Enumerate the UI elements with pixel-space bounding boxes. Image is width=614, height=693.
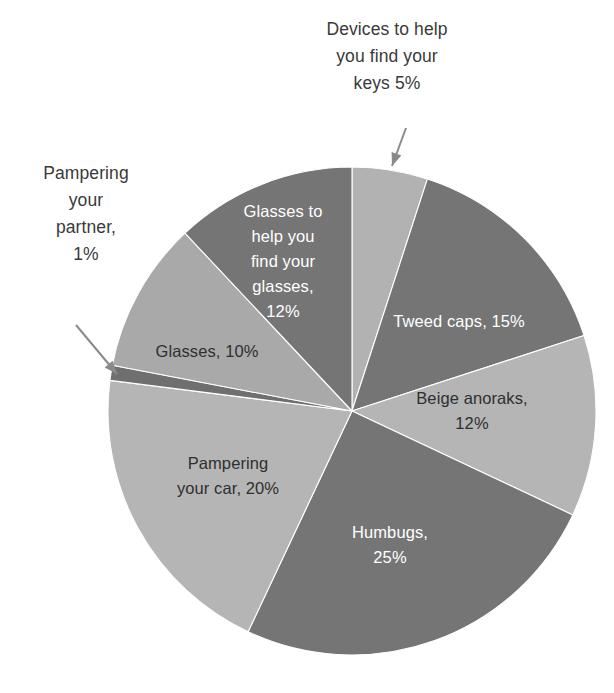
leader-line-devices-to-help-you-find-your-keys [392,128,406,166]
label-line: Beige anoraks, [416,389,527,407]
label-line: keys 5% [354,73,421,93]
label-line: 1% [73,244,99,264]
label-glasses: Glasses, 10% [156,342,259,360]
label-pampering-your-partner: Pamperingyourpartner,1% [43,163,129,264]
label-line: help you [251,227,314,245]
label-tweed-caps: Tweed caps, 15% [393,312,525,330]
label-line: 12% [455,414,489,432]
label-line: glasses, [252,277,313,295]
label-line: partner, [56,217,116,237]
pie-chart: Tweed caps, 15%Beige anoraks,12%Humbugs,… [0,0,614,693]
label-line: Glasses, 10% [156,342,259,360]
pie-chart-svg: Tweed caps, 15%Beige anoraks,12%Humbugs,… [0,0,614,693]
label-line: you find your [336,46,438,66]
leader-line-pampering-your-partner [76,325,117,374]
label-line: Pampering [43,163,129,183]
label-line: Glasses to [244,202,323,220]
label-line: Humbugs, [352,523,428,541]
label-line: Tweed caps, 15% [393,312,525,330]
pie-slices [108,167,596,655]
label-devices-to-help-you-find-your-keys: Devices to helpyou find yourkeys 5% [326,19,447,93]
label-line: Devices to help [326,19,447,39]
label-line: 25% [373,548,407,566]
label-line: your car, 20% [177,479,279,497]
label-line: 12% [266,302,300,320]
label-line: find your [251,252,316,270]
label-line: Pampering [188,454,269,472]
label-line: your [69,190,104,210]
